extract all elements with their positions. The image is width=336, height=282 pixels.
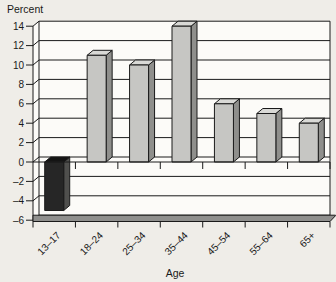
bar-25-34-front (130, 65, 149, 162)
bar-18-24-front (87, 55, 106, 162)
y-axis-tick-label: 14 (13, 21, 25, 32)
y-axis-tick-label: 4 (18, 118, 24, 129)
bar-13-17-front (45, 162, 64, 211)
bar-45-54-front (214, 104, 233, 162)
bar-55-64-side (276, 109, 282, 163)
chart-floor (33, 215, 336, 221)
y-axis-tick-label: 10 (13, 60, 25, 71)
bar-45-54-side (233, 99, 239, 162)
y-axis-tick-label: 0 (18, 157, 24, 168)
bar-chart-3d: Percent Age 14121086420–2–4–613–1718–242… (0, 0, 336, 282)
y-axis-tick-label: –4 (13, 195, 25, 206)
bar-65plus-front (299, 123, 318, 162)
x-axis-category-label: 18–24 (78, 229, 106, 257)
x-axis-category-label: 35–44 (162, 229, 190, 257)
x-axis-category-label: 55–64 (247, 229, 275, 257)
bar-35-44-front (172, 26, 191, 162)
y-axis-tick-label: 12 (13, 40, 25, 51)
bar-18-24-side (106, 50, 112, 162)
y-axis-tick-label: 6 (18, 98, 24, 109)
bar-35-44-side (191, 21, 197, 162)
y-axis-title: Percent (7, 3, 43, 15)
bar-55-64-front (257, 114, 276, 163)
y-axis-tick-label: –6 (13, 215, 25, 226)
bar-65plus-side (318, 118, 324, 162)
y-axis-tick-label: –2 (13, 176, 25, 187)
x-axis-category-label: 65+ (297, 230, 317, 250)
y-axis-tick-label: 2 (18, 137, 24, 148)
x-axis-category-label: 13–17 (35, 229, 63, 257)
bar-25-34-side (149, 60, 155, 162)
bar-13-17-side (64, 157, 70, 211)
x-axis-title: Age (166, 267, 185, 279)
x-axis-category-label: 25–34 (120, 229, 148, 257)
y-axis-tick-label: 8 (18, 79, 24, 90)
x-axis-category-label: 45–54 (205, 229, 233, 257)
age-percent-chart-figure: Percent Age 14121086420–2–4–613–1718–242… (0, 0, 336, 282)
